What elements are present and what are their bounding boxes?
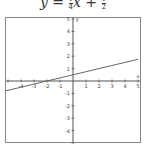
line-series — [5, 59, 138, 91]
y-tick-label: 4 — [67, 28, 70, 34]
x-tick-label: 5 — [136, 83, 139, 89]
x-axis-label: x — [136, 73, 140, 79]
tick-labels: -4-3-2-112345-4-3-2-112345xy — [19, 16, 140, 134]
y-tick-label: 5 — [67, 16, 70, 22]
y-tick-label: 3 — [67, 41, 70, 47]
y-tick-label: 1 — [67, 66, 70, 72]
y-tick-label: -4 — [65, 128, 70, 134]
axes — [6, 18, 140, 142]
coordinate-plane: -4-3-2-112345-4-3-2-112345xy — [0, 0, 146, 146]
y-tick-label: -1 — [65, 90, 70, 96]
x-tick-label: 3 — [110, 83, 113, 89]
y-tick-label: 2 — [67, 53, 70, 59]
x-tick-label: -1 — [58, 83, 63, 89]
y-tick-label: -3 — [65, 115, 70, 121]
x-tick-label: 4 — [123, 83, 126, 89]
x-tick-label: 1 — [84, 83, 87, 89]
y-tick-label: -2 — [65, 103, 70, 109]
x-tick-label: -2 — [45, 83, 50, 89]
x-tick-label: 2 — [97, 83, 100, 89]
plot-line — [5, 59, 138, 91]
